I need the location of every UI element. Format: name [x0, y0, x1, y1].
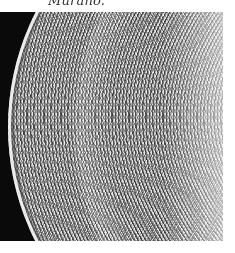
murano-glass-photo	[0, 12, 223, 241]
figure-caption: Murano.	[48, 0, 105, 8]
light-fade	[163, 12, 223, 241]
